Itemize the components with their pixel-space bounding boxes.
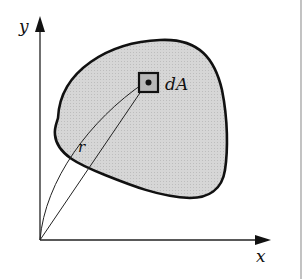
y-axis-arrow-icon	[35, 16, 45, 32]
y-axis-label: y	[18, 16, 29, 36]
area-region	[55, 40, 227, 198]
area-moment-diagram: y x dA r	[0, 0, 303, 279]
area-element-point	[146, 80, 152, 86]
x-axis-arrow-icon	[255, 235, 271, 245]
element-area-label: dA	[165, 74, 188, 94]
x-axis-label: x	[256, 246, 266, 266]
radius-label: r	[78, 138, 86, 156]
